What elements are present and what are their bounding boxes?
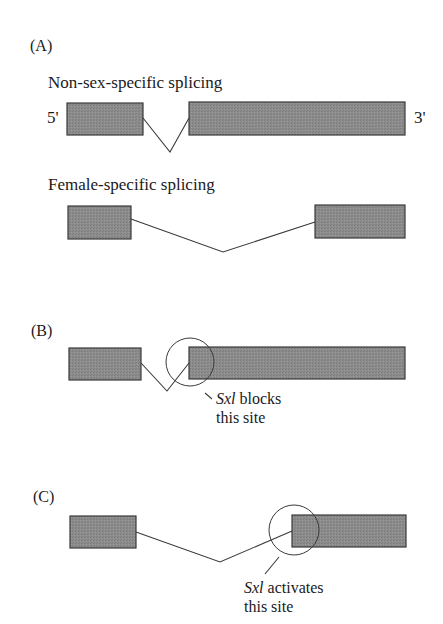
- annotation-pointer: [205, 393, 212, 399]
- exon-box: [189, 347, 405, 379]
- panel-b-label: (B): [31, 322, 52, 340]
- sxl-gene-name: Sxl: [244, 579, 264, 596]
- exon-box: [315, 205, 405, 238]
- splice-line: [131, 219, 315, 252]
- exon-box: [189, 102, 405, 135]
- annotation-text-line2: this site: [244, 598, 293, 615]
- five-prime-label: 5': [47, 109, 59, 127]
- panel-a-label: (A): [30, 37, 52, 55]
- panel-c-label: (C): [33, 488, 54, 506]
- sxl-activates-annotation: Sxl activates this site: [244, 578, 324, 616]
- exon-box: [67, 103, 143, 135]
- sxl-gene-name: Sxl: [216, 390, 236, 407]
- splice-line: [143, 118, 189, 152]
- annotation-pointer: [265, 557, 279, 574]
- annotation-text: activates: [264, 579, 324, 596]
- annotation-text: blocks: [236, 390, 282, 407]
- exon-box: [69, 348, 141, 380]
- sxl-blocks-annotation: Sxl blocks this site: [216, 389, 281, 427]
- three-prime-label: 3': [414, 109, 426, 127]
- splicing-diagram: [0, 0, 443, 624]
- annotation-text-line2: this site: [216, 409, 265, 426]
- splice-line: [136, 531, 292, 562]
- exon-box: [292, 515, 406, 547]
- exon-box: [68, 206, 131, 239]
- female-specific-title: Female-specific splicing: [48, 176, 215, 194]
- exon-box: [70, 516, 136, 548]
- non-sex-specific-title: Non-sex-specific splicing: [48, 74, 222, 92]
- splice-line: [141, 363, 189, 391]
